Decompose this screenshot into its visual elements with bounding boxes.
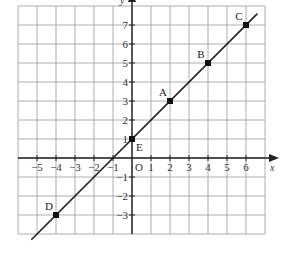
x-tick-label: 5 <box>224 161 230 173</box>
origin-label: O <box>135 161 143 173</box>
y-tick-label: 5 <box>123 57 129 69</box>
y-tick-label: 3 <box>123 95 129 107</box>
x-tick-label: −3 <box>69 161 81 173</box>
y-tick-label: 7 <box>123 19 129 31</box>
x-tick-label: 4 <box>205 161 211 173</box>
y-tick-label: 4 <box>123 76 129 88</box>
x-tick-label: 3 <box>186 161 192 173</box>
coordinate-graph: xyO −5−4−3−2−1123456−3−2−11234567 DEABC <box>0 0 285 257</box>
point-label-a: A <box>159 86 167 98</box>
x-tick-label: −2 <box>88 161 100 173</box>
point-label-d: D <box>45 200 53 212</box>
x-tick-label: −4 <box>50 161 62 173</box>
y-tick-label: 2 <box>123 114 129 126</box>
axes: xyO <box>18 0 279 234</box>
grid-lines <box>18 6 265 234</box>
y-tick-label: −2 <box>116 190 128 202</box>
y-tick-label: −1 <box>116 171 128 183</box>
point-e <box>129 136 135 142</box>
x-axis-arrow-icon <box>269 154 279 162</box>
x-tick-label: 1 <box>148 161 154 173</box>
data-series: DEABC <box>31 10 257 240</box>
x-axis-label: x <box>269 162 275 173</box>
x-tick-label: 6 <box>243 161 249 173</box>
point-c <box>243 22 249 28</box>
y-axis-arrow-icon <box>128 0 136 2</box>
y-tick-label: 6 <box>123 38 129 50</box>
x-tick-label: −5 <box>31 161 43 173</box>
point-a <box>167 98 173 104</box>
point-label-c: C <box>235 10 242 22</box>
y-tick-label: −3 <box>116 209 128 221</box>
point-d <box>53 212 59 218</box>
point-label-b: B <box>197 48 204 60</box>
line-y-equals-x-plus-1 <box>31 14 257 240</box>
point-b <box>205 60 211 66</box>
point-label-e: E <box>136 141 143 153</box>
y-axis-label: y <box>119 0 125 6</box>
x-tick-label: 2 <box>167 161 173 173</box>
